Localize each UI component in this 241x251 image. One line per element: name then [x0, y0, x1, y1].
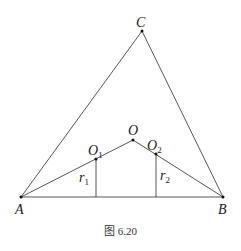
label-B: B [218, 202, 227, 217]
point-A [20, 196, 23, 199]
side-BC [142, 31, 223, 197]
label-O: O [128, 123, 138, 138]
segment-AO [21, 140, 133, 197]
label-O2: O2 [147, 138, 162, 155]
figure-caption: 图 6.20 [104, 225, 138, 237]
label-C: C [136, 15, 146, 30]
label-r2: r2 [160, 168, 170, 185]
point-O [132, 139, 135, 142]
geometry-diagram: C A B O O1 O2 r1 r2 图 6.20 [0, 0, 241, 251]
label-O1: O1 [88, 143, 103, 160]
point-B [222, 196, 225, 199]
label-r1: r1 [79, 170, 89, 187]
label-A: A [14, 202, 24, 217]
